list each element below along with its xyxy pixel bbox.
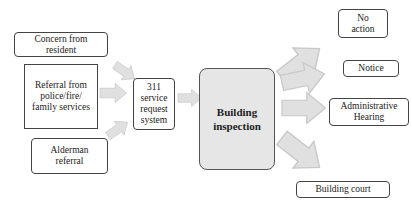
arrow-to-building-court — [272, 125, 330, 181]
arrow-referral-to-311 — [100, 84, 127, 103]
box-311-service-request-system: 311 service request system — [133, 78, 175, 130]
box-building-court: Building court — [296, 181, 390, 198]
box-notice: Notice — [343, 60, 399, 77]
box-concern-from-resident: Concern from resident — [14, 32, 108, 57]
arrow-alderman-to-311 — [103, 115, 132, 143]
box-building-inspection: Building inspection — [199, 68, 275, 170]
box-no-action: No action — [338, 9, 388, 38]
arrow-to-admin-hearing — [282, 93, 325, 124]
box-administrative-hearing: Administrative Hearing — [329, 98, 409, 126]
box-alderman-referral: Alderman referral — [31, 138, 108, 174]
box-referral: Referral from police/fire/ family servic… — [24, 64, 98, 129]
